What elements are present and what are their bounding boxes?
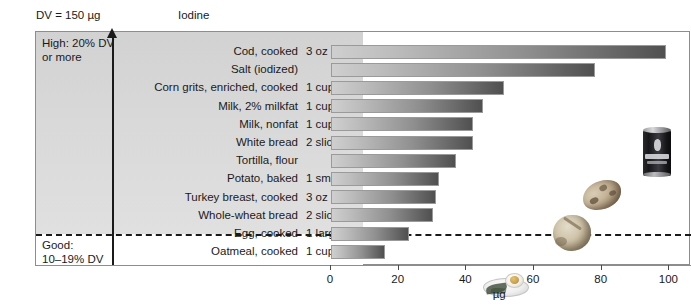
- axis-tick-mark: [601, 265, 602, 270]
- axis-tick-label: 40: [459, 273, 472, 285]
- serving-size-label: 1 cup: [306, 118, 334, 130]
- food-name-label: White bread: [236, 136, 298, 148]
- food-name-label: Milk, nonfat: [239, 118, 298, 130]
- value-axis-label: µg: [493, 288, 506, 300]
- category-axis-line: [112, 36, 114, 265]
- food-name-label: Turkey breast, cooked: [185, 191, 298, 203]
- food-name-label: Corn grits, enriched, cooked: [154, 81, 298, 93]
- egg-on-plate-photo: [483, 272, 529, 298]
- value-axis-line: [35, 265, 691, 266]
- food-name-label: Tortilla, flour: [236, 154, 298, 166]
- serving-size-label: 1 cup: [306, 245, 334, 257]
- iodine-chart-figure: DV = 150 µg Iodine High: 20% DV or more …: [0, 0, 691, 305]
- daily-value-label: DV = 150 µg: [36, 9, 101, 25]
- value-bar: [331, 63, 595, 77]
- food-name-label: Cod, cooked: [233, 45, 298, 57]
- value-bar: [331, 117, 473, 131]
- value-bar: [331, 81, 504, 95]
- value-bar: [331, 172, 439, 186]
- value-bar: [331, 45, 666, 59]
- food-name-label: Egg, cooked: [234, 227, 298, 239]
- food-name-label: Potato, baked: [227, 172, 298, 184]
- axis-tick-mark: [465, 265, 466, 270]
- zone-label-high: High: 20% DV or more: [42, 37, 114, 64]
- food-name-label: Oatmeal, cooked: [211, 245, 298, 257]
- nutrient-title: Iodine: [178, 9, 209, 25]
- zone-label-good: Good: 10–19% DV: [42, 239, 103, 266]
- serving-size-label: 1 cup: [306, 100, 334, 112]
- tortilla-photo: [578, 174, 626, 216]
- value-bar: [331, 227, 409, 241]
- value-bar: [331, 190, 436, 204]
- axis-tick-mark: [398, 265, 399, 270]
- value-bar: [331, 99, 483, 113]
- axis-tick-label: 80: [594, 273, 607, 285]
- chart-plot-area: High: 20% DV or more Good: 10–19% DV Cod…: [35, 31, 690, 265]
- axis-tick-mark: [330, 265, 331, 270]
- serving-size-label: 1 cup: [306, 81, 334, 93]
- axis-tick-label: 100: [659, 273, 678, 285]
- value-bar: [331, 154, 456, 168]
- salt-canister-photo: [643, 127, 671, 179]
- axis-tick-label: 0: [327, 273, 333, 285]
- axis-tick-mark: [668, 265, 669, 270]
- food-name-label: Salt (iodized): [231, 63, 298, 75]
- axis-tick-label: 20: [391, 273, 404, 285]
- food-name-label: Whole-wheat bread: [198, 209, 298, 221]
- axis-tick-mark: [533, 265, 534, 270]
- value-bar: [331, 245, 385, 259]
- axis-tick-label: 60: [527, 273, 540, 285]
- value-bar: [331, 208, 433, 222]
- value-bar: [331, 136, 473, 150]
- baked-potato-photo: [553, 215, 591, 251]
- food-name-label: Milk, 2% milkfat: [218, 100, 298, 112]
- serving-size-label: 3 oz: [306, 45, 328, 57]
- serving-size-label: 3 oz: [306, 191, 328, 203]
